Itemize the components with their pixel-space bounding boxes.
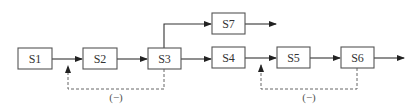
feedback-s6: [261, 65, 357, 89]
block-diagram: S1 S2 S3 S4 S5 S6 S7 (−) (−): [0, 0, 419, 108]
block-s7-label: S7: [222, 17, 235, 31]
block-s3-label: S3: [158, 52, 171, 66]
feedback-sign-1: (−): [109, 91, 123, 104]
block-s6-label: S6: [351, 51, 364, 65]
block-s2-label: S2: [94, 52, 107, 66]
block-s5-label: S5: [287, 51, 300, 65]
block-s4-label: S4: [222, 51, 235, 65]
arrow-s3-s7: [164, 24, 211, 49]
feedback-sign-2: (−): [302, 91, 316, 104]
block-s1-label: S1: [29, 52, 42, 66]
